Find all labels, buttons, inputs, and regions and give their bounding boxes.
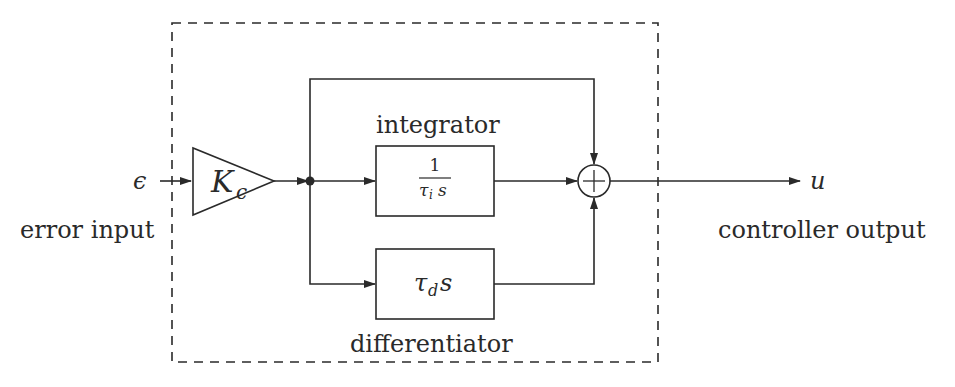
gain-subscript: c [236,180,247,204]
summing-junction [578,165,610,197]
differentiator-output-arrow [494,198,594,284]
integrator-s: s [438,180,447,200]
input-label: error input [20,216,155,244]
gain-symbol: K [210,164,235,199]
differentiator-label: differentiator [350,330,513,358]
input-symbol: ϵ [133,167,146,195]
integrator-subscript: i [429,188,433,202]
differentiator-block: τ d s [376,249,494,319]
gain-block: K c [193,148,274,215]
output-symbol: u [810,167,825,195]
output-label: controller output [718,216,926,244]
differentiator-subscript: d [428,281,438,300]
integrator-numerator: 1 [430,155,441,175]
integrator-label: integrator [376,111,500,139]
differentiator-s: s [440,269,452,297]
integrator-tau: τ [419,180,429,200]
integrator-block: 1 τ i s [376,146,494,216]
differentiator-tau: τ [414,269,428,297]
differentiator-input-arrow [310,181,375,284]
pid-block-diagram: ϵ error input K c 1 τ i s integrator τ d… [0,0,955,387]
